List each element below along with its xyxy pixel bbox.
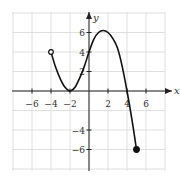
y-axis-label: y (92, 12, 99, 23)
y-tick-label: 4 (79, 48, 85, 58)
y-tick-label: 6 (79, 28, 85, 38)
x-tick-label: −4 (44, 99, 58, 109)
x-tick-label: 2 (105, 99, 111, 109)
x-tick-label: −6 (25, 99, 39, 109)
closed-endpoint (134, 147, 140, 153)
y-tick-label: −6 (72, 145, 86, 155)
y-tick-label: −4 (72, 126, 86, 136)
function-curve (51, 31, 137, 150)
x-axis-label: x (174, 85, 180, 96)
open-endpoint (49, 50, 54, 55)
x-tick-label: 6 (143, 99, 149, 109)
x-tick-label: −2 (63, 99, 76, 109)
function-graph: x y −6−4−2246−6−4246 (0, 0, 180, 187)
x-axis-arrow-icon (165, 88, 172, 94)
